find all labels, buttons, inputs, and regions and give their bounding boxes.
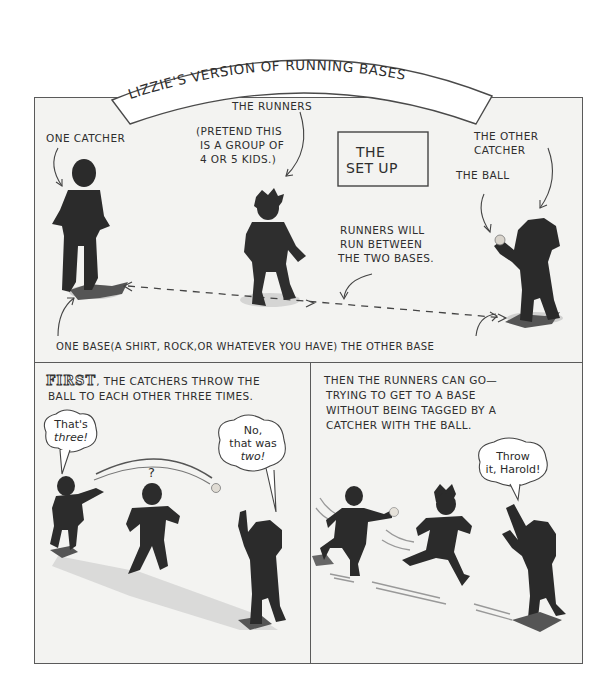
question-mark: ? (148, 466, 155, 479)
label-the-runners: THE RUNNERS (232, 100, 312, 113)
label-the-ball: THE BALL (456, 169, 510, 182)
setup-heading-line1: THE (356, 144, 385, 160)
first-caption-line2: BALL TO EACH OTHER THREE TIMES. (48, 390, 253, 403)
bubble-harold-text: Throw it, Harold! (480, 450, 546, 476)
label-runners-will-2: RUN BETWEEN (340, 238, 422, 251)
label-bases-caption: ONE BASE(A SHIRT, ROCK,OR WHATEVER YOU H… (56, 340, 434, 353)
then-caption-line4: CATCHER WITH THE BALL. (326, 419, 472, 432)
label-runners-will-3: THE TWO BASES. (338, 252, 434, 265)
label-pretend-2: IS A GROUP OF (200, 139, 284, 152)
page-title: LIZZIE'S VERSION OF RUNNING BASES (126, 57, 408, 102)
setup-heading-line2: SET UP (346, 160, 398, 176)
then-caption-line1: THEN THE RUNNERS CAN GO— (324, 374, 497, 387)
label-one-catcher: ONE CATCHER (46, 132, 125, 145)
first-lead-word: FIRST (46, 373, 96, 388)
label-pretend-1: (PRETEND THIS (196, 125, 282, 138)
first-caption-line1: FIRST, THE CATCHERS THROW THE (46, 374, 260, 388)
bubble-left-text: That's three! (46, 418, 96, 444)
label-other-catcher-1: THE OTHER (474, 130, 538, 143)
then-caption-line3: WITHOUT BEING TAGGED BY A (326, 404, 496, 417)
label-pretend-3: 4 OR 5 KIDS.) (200, 153, 276, 166)
then-caption-line2: TRYING TO GET TO A BASE (326, 389, 476, 402)
bubble-right-text: No, that was two! (222, 424, 284, 463)
label-other-catcher-2: CATCHER (474, 144, 525, 157)
label-runners-will-1: RUNNERS WILL (340, 224, 425, 237)
